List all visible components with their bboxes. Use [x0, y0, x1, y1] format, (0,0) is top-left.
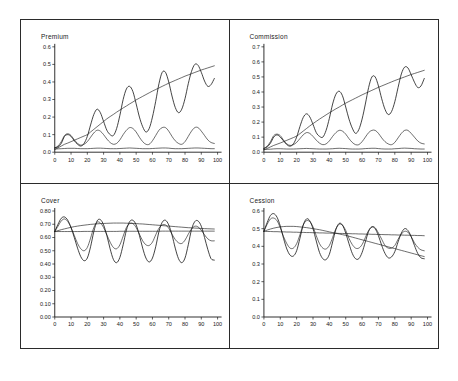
x-tick-label: 0: [262, 157, 265, 163]
x-tick-label: 30: [309, 321, 315, 327]
series-line: [263, 214, 423, 260]
y-tick-label: 0.30: [40, 274, 51, 280]
y-tick-label: 0.3: [43, 96, 51, 102]
x-tick-label: 80: [182, 157, 188, 163]
x-tick-label: 80: [182, 321, 188, 327]
plot-premium: 0.00.10.20.30.40.50.60102030405060708090…: [21, 20, 229, 183]
x-tick-label: 90: [198, 321, 204, 327]
y-tick-label: 0.70: [40, 221, 51, 227]
x-tick-label: 10: [68, 321, 74, 327]
x-tick-label: 60: [149, 157, 155, 163]
x-tick-label: 100: [422, 321, 431, 327]
plot-commission: 0.00.10.20.30.40.50.60.70102030405060708…: [230, 20, 439, 183]
y-tick-label: 0.00: [40, 314, 51, 320]
panel-commission: Commission 0.00.10.20.30.40.50.60.701020…: [230, 20, 439, 184]
x-tick-label: 70: [375, 157, 381, 163]
x-tick-label: 10: [277, 321, 283, 327]
y-tick-label: 0.5: [252, 74, 260, 80]
x-tick-label: 60: [149, 321, 155, 327]
y-tick-label: 0.1: [252, 296, 260, 302]
x-tick-label: 50: [133, 157, 139, 163]
y-tick-label: 0.4: [252, 243, 260, 249]
x-tick-label: 50: [342, 321, 348, 327]
y-tick-label: 0.50: [40, 248, 51, 254]
x-tick-label: 20: [84, 157, 90, 163]
x-tick-label: 20: [293, 321, 299, 327]
series-line: [263, 148, 423, 149]
panel-cover: Cover 0.000.100.200.300.400.500.600.700.…: [21, 184, 230, 348]
figure-canvas: Premium 0.00.10.20.30.40.50.601020304050…: [0, 0, 458, 381]
y-tick-label: 0.2: [252, 119, 260, 125]
y-tick-label: 0.3: [252, 261, 260, 267]
panel-grid: Premium 0.00.10.20.30.40.50.601020304050…: [20, 19, 439, 349]
x-tick-label: 10: [68, 157, 74, 163]
y-tick-label: 0.5: [252, 226, 260, 232]
plot-cession: 0.00.10.20.30.40.50.60102030405060708090…: [230, 184, 439, 348]
x-tick-label: 70: [375, 321, 381, 327]
x-tick-label: 100: [213, 321, 222, 327]
x-tick-label: 100: [213, 157, 222, 163]
panel-premium: Premium 0.00.10.20.30.40.50.601020304050…: [21, 20, 230, 184]
x-tick-label: 80: [391, 321, 397, 327]
y-tick-label: 0.0: [252, 314, 260, 320]
series-line: [55, 66, 215, 150]
x-tick-label: 30: [309, 157, 315, 163]
x-tick-label: 50: [342, 157, 348, 163]
y-tick-label: 0.3: [252, 104, 260, 110]
x-tick-label: 100: [422, 157, 431, 163]
x-tick-label: 0: [53, 157, 56, 163]
y-tick-label: 0.7: [252, 44, 260, 50]
x-tick-label: 0: [262, 321, 265, 327]
y-tick-label: 0.10: [40, 301, 51, 307]
y-tick-label: 0.1: [252, 134, 260, 140]
x-tick-label: 10: [277, 157, 283, 163]
y-tick-label: 0.0: [252, 149, 260, 155]
x-tick-label: 30: [101, 321, 107, 327]
x-tick-label: 40: [326, 157, 332, 163]
y-tick-label: 0.80: [40, 208, 51, 214]
y-tick-label: 0.40: [40, 261, 51, 267]
x-tick-label: 70: [166, 321, 172, 327]
series-line: [55, 64, 215, 148]
y-tick-label: 0.4: [43, 79, 51, 85]
x-tick-label: 60: [358, 321, 364, 327]
y-tick-label: 0.6: [252, 208, 260, 214]
y-tick-label: 0.60: [40, 234, 51, 240]
y-tick-label: 0.1: [43, 132, 51, 138]
y-tick-label: 0.6: [252, 59, 260, 65]
y-tick-label: 0.2: [252, 279, 260, 285]
x-tick-label: 30: [101, 157, 107, 163]
x-tick-label: 20: [293, 157, 299, 163]
y-tick-label: 0.2: [43, 114, 51, 120]
x-tick-label: 40: [326, 321, 332, 327]
y-tick-label: 0.5: [43, 61, 51, 67]
x-tick-label: 0: [53, 321, 56, 327]
y-tick-label: 0.20: [40, 287, 51, 293]
y-tick-label: 0.0: [43, 149, 51, 155]
series-line: [55, 148, 215, 149]
x-tick-label: 40: [117, 157, 123, 163]
x-tick-label: 20: [84, 321, 90, 327]
plot-cover: 0.000.100.200.300.400.500.600.700.800102…: [21, 184, 229, 348]
series-line: [263, 218, 423, 251]
y-tick-label: 0.4: [252, 89, 260, 95]
y-tick-label: 0.6: [43, 44, 51, 50]
x-tick-label: 40: [117, 321, 123, 327]
x-tick-label: 50: [133, 321, 139, 327]
x-tick-label: 90: [408, 157, 414, 163]
x-tick-label: 90: [408, 321, 414, 327]
x-tick-label: 80: [391, 157, 397, 163]
x-tick-label: 60: [358, 157, 364, 163]
series-line: [263, 70, 423, 150]
panel-cession: Cession 0.00.10.20.30.40.50.601020304050…: [230, 184, 439, 348]
x-tick-label: 70: [166, 157, 172, 163]
x-tick-label: 90: [198, 157, 204, 163]
